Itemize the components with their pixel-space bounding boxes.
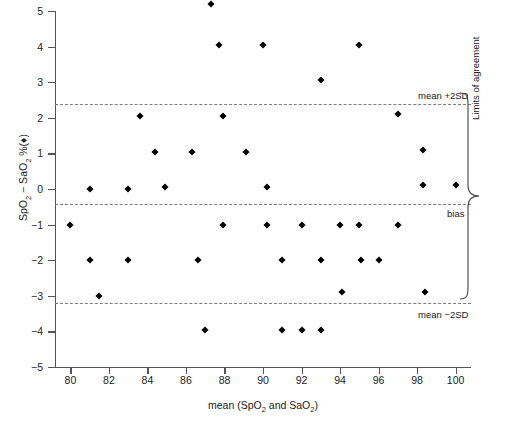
x-tick <box>456 367 457 374</box>
data-point <box>336 221 343 228</box>
x-tick-label: 90 <box>243 374 283 386</box>
y-tick-label: 5 <box>0 6 43 16</box>
data-point <box>279 326 286 333</box>
data-point <box>279 257 286 264</box>
x-tick <box>417 367 418 374</box>
plot-area: −5−4−3−2−1012345 80828486889092949698100… <box>0 0 517 423</box>
data-point <box>96 292 103 299</box>
y-tick <box>48 296 55 297</box>
y-tick <box>48 82 55 83</box>
data-point <box>86 185 93 192</box>
y-tick <box>48 225 55 226</box>
data-point <box>152 148 159 155</box>
x-tick-label: 96 <box>359 374 399 386</box>
x-tick <box>340 367 341 374</box>
data-point <box>419 182 426 189</box>
x-tick <box>186 367 187 374</box>
data-point <box>194 257 201 264</box>
y-tick <box>48 47 55 48</box>
limits-of-agreement-brace <box>459 92 481 300</box>
data-point <box>338 289 345 296</box>
x-tick <box>224 367 225 374</box>
y-tick <box>48 260 55 261</box>
y-tick-label: 4 <box>0 42 43 52</box>
data-point <box>67 221 74 228</box>
x-tick-label: 86 <box>166 374 206 386</box>
x-tick-label: 100 <box>436 374 476 386</box>
y-axis-label: SpO2 − SaO2 %(♦) <box>17 108 32 248</box>
x-tick-label: 94 <box>320 374 360 386</box>
x-tick <box>147 367 148 374</box>
data-point <box>86 257 93 264</box>
data-point <box>421 289 428 296</box>
data-point <box>136 112 143 119</box>
y-tick <box>48 153 55 154</box>
data-point <box>298 326 305 333</box>
x-tick-label: 80 <box>50 374 90 386</box>
x-axis-label: mean (SpO2 and SaO2) <box>148 399 378 414</box>
y-tick-label: −4 <box>0 326 43 336</box>
data-point <box>242 148 249 155</box>
y-tick <box>48 367 55 368</box>
bland-altman-plot: −5−4−3−2−1012345 80828486889092949698100… <box>0 0 517 423</box>
data-point <box>188 148 195 155</box>
data-point <box>259 41 266 48</box>
y-tick <box>48 11 55 12</box>
brace-label: Limits of agreement <box>470 0 481 120</box>
data-point <box>125 185 132 192</box>
reference-line-bias <box>55 204 471 205</box>
data-point <box>125 257 132 264</box>
reference-line-upper <box>55 104 471 105</box>
x-tick <box>109 367 110 374</box>
reference-line-lower <box>55 303 471 304</box>
x-tick <box>263 367 264 374</box>
data-point <box>219 221 226 228</box>
data-point <box>317 77 324 84</box>
y-axis-line <box>55 11 56 368</box>
data-point <box>356 221 363 228</box>
x-tick <box>302 367 303 374</box>
data-point <box>202 326 209 333</box>
data-point <box>219 112 226 119</box>
y-tick-label: −2 <box>0 255 43 265</box>
data-point <box>317 257 324 264</box>
data-point <box>358 257 365 264</box>
y-tick <box>48 118 55 119</box>
data-point <box>263 221 270 228</box>
x-tick-label: 98 <box>397 374 437 386</box>
data-point <box>298 221 305 228</box>
x-tick <box>379 367 380 374</box>
x-tick-label: 82 <box>89 374 129 386</box>
y-tick <box>48 189 55 190</box>
data-point <box>215 41 222 48</box>
data-point <box>394 221 401 228</box>
data-point <box>394 111 401 118</box>
data-point <box>356 41 363 48</box>
data-point <box>419 146 426 153</box>
y-tick-label: −3 <box>0 291 43 301</box>
data-point <box>317 326 324 333</box>
x-tick-label: 88 <box>204 374 244 386</box>
y-tick-label: 3 <box>0 77 43 87</box>
data-point <box>207 0 214 7</box>
x-tick-label: 92 <box>282 374 322 386</box>
annotation-lower-limit: mean −2SD <box>418 309 468 320</box>
x-tick-label: 84 <box>127 374 167 386</box>
data-point <box>375 257 382 264</box>
x-tick <box>70 367 71 374</box>
y-tick <box>48 331 55 332</box>
data-point <box>161 184 168 191</box>
y-tick-label: −5 <box>0 362 43 372</box>
data-point <box>263 184 270 191</box>
